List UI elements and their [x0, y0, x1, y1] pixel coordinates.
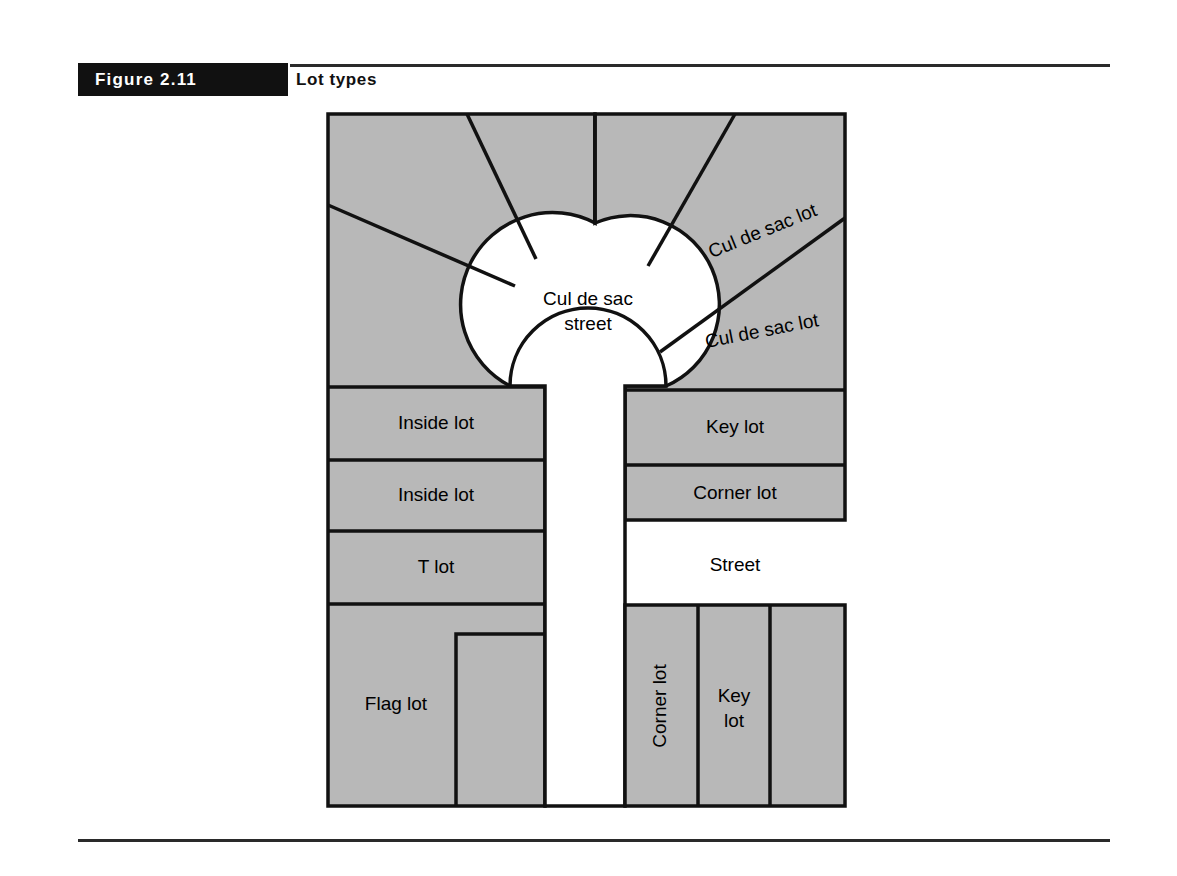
- lot-label-inside-lot-1: Inside lot: [398, 412, 475, 433]
- lot-label-corner-lot-bottom: Corner lot: [649, 664, 670, 748]
- lot-types-diagram: Cul de sac street Cul de sac lot Cul de …: [0, 0, 1177, 876]
- street-label: Street: [710, 554, 761, 575]
- lot-label-key-lot-bottom-line2: lot: [724, 710, 745, 731]
- lot-label-corner-lot-upper: Corner lot: [693, 482, 777, 503]
- lot-label-flag-lot: Flag lot: [365, 693, 428, 714]
- lot-label-inside-lot-2: Inside lot: [398, 484, 475, 505]
- footer-rule: [78, 839, 1110, 842]
- lot-label-t-lot: T lot: [418, 556, 455, 577]
- cul-de-sac-street-label-line2: street: [564, 313, 612, 334]
- lot-label-key-lot-bottom-line1: Key: [718, 685, 751, 706]
- lot-label-key-lot-upper: Key lot: [706, 416, 765, 437]
- figure-page: Figure 2.11 Lot types: [0, 0, 1177, 876]
- cul-de-sac-street-label-line1: Cul de sac: [543, 288, 633, 309]
